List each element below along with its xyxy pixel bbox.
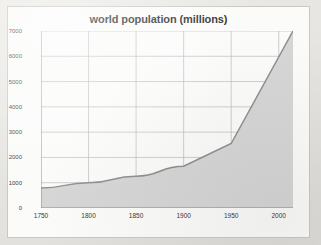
y-axis-tick-label: 5000 (7, 79, 22, 85)
scanned-page-background: world population (millions) 010002000300… (0, 0, 321, 245)
y-axis-tick-label: 6000 (7, 53, 22, 59)
y-axis-tick-label: 4000 (7, 104, 22, 110)
plot-area (41, 31, 293, 208)
x-axis-tick-label: 1850 (116, 212, 156, 219)
chart-title: world population (millions) (8, 13, 309, 25)
y-axis-tick-label: 1000 (7, 180, 22, 186)
y-axis-tick-label: 0 (7, 205, 22, 211)
world-population-area-chart (41, 31, 293, 208)
x-axis-tick-label: 1750 (21, 212, 61, 219)
y-axis-tick-label: 2000 (7, 154, 22, 160)
chart-card: world population (millions) 010002000300… (7, 6, 310, 238)
population-area-fill (41, 31, 293, 208)
y-axis-tick-label: 3000 (7, 129, 22, 135)
x-axis-tick-label: 1900 (164, 212, 204, 219)
x-axis-tick-label: 1800 (69, 212, 109, 219)
y-axis-tick-label: 7000 (7, 28, 22, 34)
x-axis-tick-label: 2000 (259, 212, 299, 219)
x-axis-tick-label: 1950 (211, 212, 251, 219)
